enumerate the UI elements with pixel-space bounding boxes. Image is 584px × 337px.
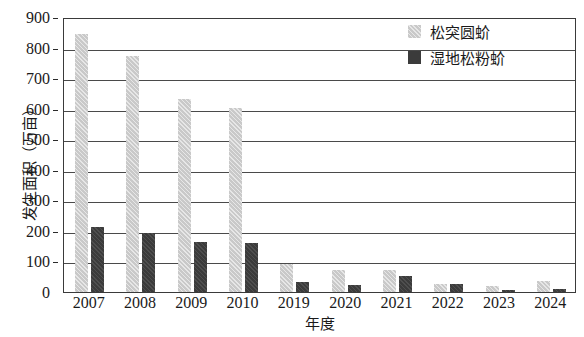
y-tick-mark xyxy=(53,49,58,50)
x-tick-label: 2019 xyxy=(278,294,310,312)
x-tick-label: 2021 xyxy=(380,294,412,312)
x-tick-label: 2024 xyxy=(534,294,566,312)
y-tick-label: 800 xyxy=(26,41,50,57)
bar-chart-figure: 发生面积（万亩） 0100200300400500600700800900 20… xyxy=(0,0,584,337)
y-tick-label: 200 xyxy=(26,224,50,240)
x-tick-label: 2020 xyxy=(329,294,361,312)
legend-item-label: 湿地松粉蚧 xyxy=(430,47,505,68)
y-tick-label: 0 xyxy=(42,285,50,301)
legend-item: 湿地松粉蚧 xyxy=(408,44,568,70)
x-tick-label: 2009 xyxy=(175,294,207,312)
y-tick-label: 600 xyxy=(26,102,50,118)
y-tick-mark xyxy=(53,262,58,263)
y-tick-label: 700 xyxy=(26,71,50,87)
x-tick-label: 2010 xyxy=(227,294,259,312)
x-axis-title: 年度 xyxy=(63,312,576,333)
y-tick-label: 400 xyxy=(26,163,50,179)
y-tick-mark xyxy=(53,79,58,80)
y-tick-label: 900 xyxy=(26,10,50,26)
x-tick-label: 2023 xyxy=(483,294,515,312)
bar xyxy=(537,281,550,292)
y-tick-mark xyxy=(53,110,58,111)
chart-legend: 松突圆蚧 湿地松粉蚧 xyxy=(408,18,568,70)
y-tick-mark xyxy=(53,140,58,141)
bar xyxy=(553,289,566,292)
y-tick-label: 300 xyxy=(26,193,50,209)
y-tick-label: 100 xyxy=(26,254,50,270)
x-tick-label: 2008 xyxy=(124,294,156,312)
y-axis-ticks: 0100200300400500600700800900 xyxy=(0,0,58,337)
legend-swatch-light-gray-square xyxy=(408,25,421,38)
y-tick-label: 500 xyxy=(26,132,50,148)
y-tick-mark xyxy=(53,201,58,202)
legend-item: 松突圆蚧 xyxy=(408,18,568,44)
x-tick-label: 2022 xyxy=(432,294,464,312)
y-tick-mark xyxy=(53,171,58,172)
x-tick-label: 2007 xyxy=(73,294,105,312)
y-tick-mark xyxy=(53,18,58,19)
legend-swatch-dark-gray-square xyxy=(408,51,421,64)
y-tick-mark xyxy=(53,232,58,233)
legend-item-label: 松突圆蚧 xyxy=(430,21,490,42)
